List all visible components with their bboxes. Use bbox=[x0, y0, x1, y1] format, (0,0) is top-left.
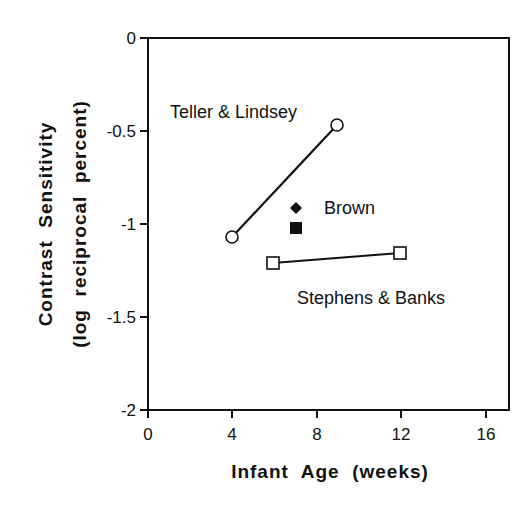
y-tick-label: -1 bbox=[121, 215, 136, 234]
y-tick-label: 0 bbox=[127, 29, 136, 48]
x-axis-title: Infant Age (weeks) bbox=[231, 461, 429, 482]
series-stephens-banks bbox=[267, 247, 406, 269]
x-axis bbox=[148, 410, 486, 418]
y-tick-label: -2 bbox=[121, 401, 136, 420]
y-tick-label: -0.5 bbox=[107, 122, 136, 141]
annotation-teller-lindsey: Teller & Lindsey bbox=[170, 102, 297, 122]
x-tick-label: 16 bbox=[477, 425, 496, 444]
y-axis bbox=[140, 38, 148, 410]
plot-frame bbox=[148, 38, 509, 410]
y-axis-subtitle: (log reciprocal percent) bbox=[69, 100, 90, 348]
chart: 0 -0.5 -1 -1.5 -2 0 4 8 12 16 Infant Age… bbox=[0, 0, 531, 509]
open-square-marker bbox=[267, 257, 279, 269]
x-tick-label: 0 bbox=[143, 425, 152, 444]
open-square-marker bbox=[394, 247, 406, 259]
filled-square-marker bbox=[290, 222, 302, 234]
open-circle-marker bbox=[331, 119, 343, 131]
x-tick-label: 8 bbox=[312, 425, 321, 444]
series-brown bbox=[290, 202, 302, 234]
y-tick-label: -1.5 bbox=[107, 308, 136, 327]
filled-diamond-marker bbox=[290, 202, 302, 214]
x-tick-label: 12 bbox=[392, 425, 411, 444]
series-teller-lindsey bbox=[226, 119, 343, 243]
x-tick-label: 4 bbox=[227, 425, 236, 444]
y-axis-title: Contrast Sensitivity bbox=[35, 122, 56, 327]
annotation-stephens-banks: Stephens & Banks bbox=[297, 288, 445, 308]
open-circle-marker bbox=[226, 231, 238, 243]
annotation-brown: Brown bbox=[324, 198, 375, 218]
